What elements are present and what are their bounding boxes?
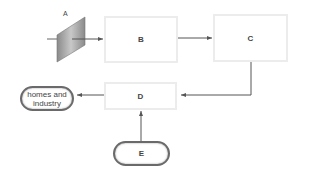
pill-e-label: E bbox=[139, 149, 144, 158]
pill-e: E bbox=[113, 141, 170, 166]
pill-homes-and-industry: homes and industry bbox=[20, 86, 74, 111]
label-a: A bbox=[63, 10, 68, 17]
box-c-label: C bbox=[248, 34, 254, 43]
box-d-label: D bbox=[138, 92, 144, 101]
arrow-c-to-d bbox=[181, 62, 251, 95]
box-b: B bbox=[104, 16, 178, 63]
box-d: D bbox=[104, 82, 177, 110]
box-c: C bbox=[213, 14, 288, 62]
homes-label-line2: industry bbox=[27, 99, 67, 108]
homes-label-line1: homes and bbox=[27, 90, 67, 99]
box-b-label: B bbox=[138, 35, 144, 44]
